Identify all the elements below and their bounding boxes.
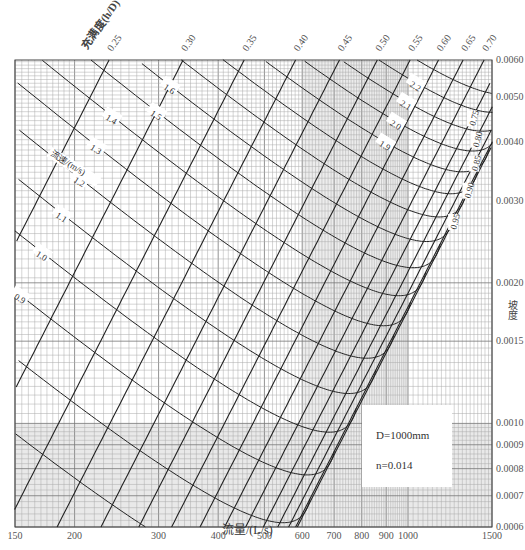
depth-label-top: 0.70: [480, 33, 499, 54]
x-tick-label: 300: [151, 530, 166, 541]
depth-label-top: 0.50: [373, 33, 392, 54]
x-tick-label: 600: [295, 530, 310, 541]
y-tick-label: 0.0030: [496, 195, 524, 206]
legend-box: D=1000mm n=0.014: [362, 405, 452, 487]
y-tick-label: 0.0008: [496, 463, 524, 474]
legend-diameter: D=1000mm: [376, 429, 429, 441]
nomogram-chart: 150200300400500600700800900100015000.000…: [0, 0, 525, 550]
depth-label-top: 0.55: [406, 33, 425, 54]
x-tick-label: 1000: [398, 530, 418, 541]
x-tick-label: 150: [8, 530, 23, 541]
depth-label-top: 0.65: [459, 33, 478, 54]
y-tick-label: 0.0050: [496, 91, 524, 102]
x-tick-label: 900: [379, 530, 394, 541]
depth-label-top: 0.60: [434, 33, 453, 54]
legend-roughness: n=0.014: [376, 459, 412, 471]
depth-label-top: 0.35: [240, 33, 259, 54]
velocity-axis-title: 流速/(m/s): [49, 147, 88, 177]
y-axis-title: 坡度: [504, 300, 519, 320]
x-tick-label: 700: [327, 530, 342, 541]
depth-label-top: 0.40: [291, 33, 310, 54]
y-tick-label: 0.0040: [496, 136, 524, 147]
y-tick-label: 0.0020: [496, 277, 524, 288]
y-tick-label: 0.0015: [496, 335, 524, 346]
y-tick-label: 0.0007: [496, 490, 524, 501]
y-tick-label: 0.0060: [496, 54, 524, 65]
x-tick-label: 200: [67, 530, 82, 541]
depth-label-top: 0.30: [179, 33, 198, 54]
y-tick-label: 0.0009: [496, 439, 524, 450]
y-tick-label: 0.0006: [496, 521, 524, 532]
y-tick-label: 0.0010: [496, 417, 524, 428]
x-tick-label: 800: [354, 530, 369, 541]
x-axis-title: 流量/(L/s): [222, 520, 273, 538]
depth-label-top: 0.45: [335, 33, 354, 54]
depth-label-top: 0.25: [105, 33, 124, 54]
